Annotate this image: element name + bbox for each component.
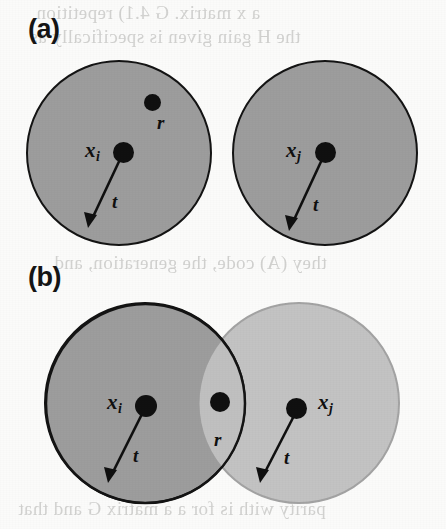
center-dot-xi-panel-b [135, 395, 157, 417]
center-label-xi-panel-b: xi [107, 392, 122, 416]
xi-subscript-b: i [118, 401, 122, 416]
radius-label-t-b-left: t [133, 446, 138, 465]
point-r-dot-panel-b [210, 392, 230, 412]
panel-b-label: (b) [28, 262, 61, 293]
xj-subscript: j [297, 149, 301, 164]
center-label-xj-panel-b: xj [318, 392, 333, 416]
radius-arrow-b-right [0, 0, 446, 529]
xj-subscript-b: j [329, 401, 333, 416]
xj-base-b: x [318, 390, 329, 414]
center-dot-xj-panel-b [286, 398, 307, 419]
point-r-label-panel-a: r [157, 113, 164, 132]
point-r-label-panel-b: r [214, 430, 221, 449]
xj-base: x [286, 138, 297, 162]
center-label-xj-panel-a: xj [286, 140, 301, 164]
radius-label-t-a-left: t [112, 192, 117, 211]
panel-a-label: (a) [28, 14, 60, 45]
figure-container: a x matrix. G 4.1) repetition the H gain… [0, 0, 446, 529]
point-r-dot-panel-a [144, 94, 161, 111]
radius-label-t-b-right: t [284, 448, 289, 467]
center-dot-xj-panel-a [315, 142, 336, 163]
xi-base-b: x [107, 390, 118, 414]
center-dot-xi-panel-a [113, 142, 134, 163]
xi-base: x [85, 138, 96, 162]
center-label-xi-panel-a: xi [85, 140, 100, 164]
xi-subscript: i [96, 149, 100, 164]
radius-label-t-a-right: t [313, 195, 318, 214]
